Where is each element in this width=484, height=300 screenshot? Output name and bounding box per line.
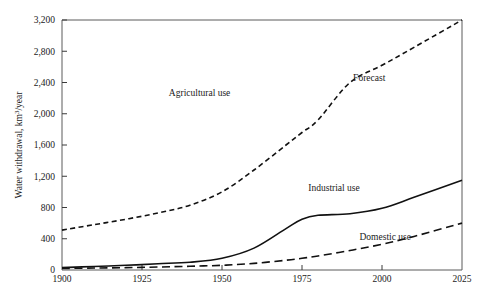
x-tick-label: 1950: [213, 274, 232, 284]
y-tick-label: 1,600: [34, 140, 56, 150]
y-tick-label: 800: [41, 203, 56, 213]
x-tick-label: 1925: [133, 274, 152, 284]
series-line-industrial-use: [62, 180, 462, 268]
y-tick-label: 2,800: [34, 47, 56, 57]
x-tick-label: 2000: [373, 274, 392, 284]
series-line-agricultural-use: [62, 20, 462, 230]
figure-container: 04008001,2001,6002,0002,4002,8003,200 19…: [0, 0, 484, 300]
annotation-industrial-use: Industrial use: [308, 183, 359, 193]
y-tick-label: 2,400: [34, 78, 56, 88]
y-tick-label: 400: [41, 234, 56, 244]
y-axis-label: Water withdrawal, km3/year: [13, 91, 24, 199]
annotation-agricultural-use: Agricultural use: [169, 88, 230, 98]
water-withdrawal-line-chart: 04008001,2001,6002,0002,4002,8003,200 19…: [0, 0, 484, 300]
series-line-domestic-use: [62, 223, 462, 268]
x-tick-label: 1900: [53, 274, 72, 284]
annotation-domestic-use: Domestic use: [359, 232, 410, 242]
y-tick-label: 2,000: [34, 109, 56, 119]
annotation-forecast: Forecast: [353, 73, 386, 83]
y-tick-label: 3,200: [34, 15, 56, 25]
x-tick-label: 1975: [293, 274, 312, 284]
y-tick-label: 1,200: [34, 172, 56, 182]
x-tick-label: 2025: [453, 274, 472, 284]
chart-annotations: ForecastAgricultural useIndustrial useDo…: [169, 73, 411, 242]
